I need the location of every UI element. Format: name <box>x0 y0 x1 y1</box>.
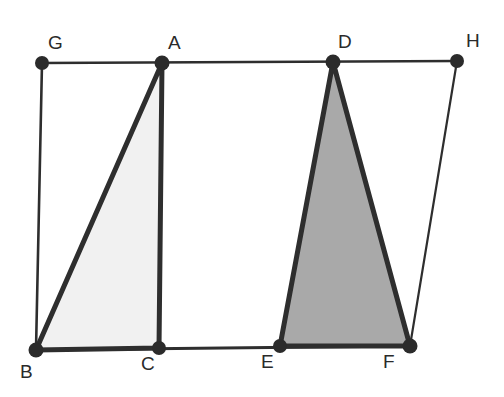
vertex-dot-f <box>403 339 418 354</box>
vertex-label-c: C <box>141 354 155 373</box>
vertex-dot-g <box>35 56 49 70</box>
vertex-label-h: H <box>466 31 480 50</box>
vertex-label-a: A <box>168 33 181 52</box>
vertex-dot-b <box>29 343 44 358</box>
segment-side-hf <box>410 61 457 346</box>
vertex-label-g: G <box>48 33 63 52</box>
vertex-dot-d <box>326 55 341 70</box>
vertex-dot-e <box>273 339 287 353</box>
vertex-label-e: E <box>261 352 274 371</box>
vertex-label-f: F <box>383 352 395 371</box>
vertex-label-b: B <box>20 362 33 381</box>
geometry-canvas <box>0 0 504 397</box>
segment-side-gb <box>36 63 42 350</box>
vertex-dot-h <box>450 54 464 68</box>
segment-top-line-gh <box>42 61 457 63</box>
vertex-label-d: D <box>338 32 352 51</box>
geometry-figure: G A D H B C E F <box>0 0 504 397</box>
vertex-dot-a <box>155 56 170 71</box>
